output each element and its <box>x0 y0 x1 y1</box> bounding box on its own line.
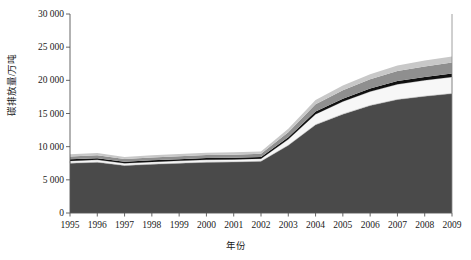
x-axis-tick-label: 2002 <box>252 220 271 231</box>
x-axis-tick-label: 1999 <box>170 220 189 231</box>
x-axis-tick-label: 2006 <box>361 220 380 231</box>
x-axis-title: 年份 <box>0 238 471 252</box>
x-axis-tick-label: 2000 <box>197 220 216 231</box>
x-axis-tick-label: 2001 <box>224 220 243 231</box>
x-axis-tick-label: 2003 <box>279 220 298 231</box>
x-axis-tick-label: 2007 <box>388 220 407 231</box>
chart-container: 碳排放量/万吨 05 00010 00015 00020 00025 00030… <box>0 0 471 260</box>
x-axis-tick-label: 1998 <box>142 220 161 231</box>
x-axis-tick-label: 1995 <box>61 220 80 231</box>
x-axis-tick-label: 1996 <box>88 220 107 231</box>
x-axis-tick-label: 2004 <box>306 220 325 231</box>
x-axis-tick-label: 2005 <box>333 220 352 231</box>
x-axis-tick-label: 2009 <box>443 220 462 231</box>
x-axis-tick-label: 1997 <box>115 220 134 231</box>
x-axis-tick-label: 2008 <box>415 220 434 231</box>
